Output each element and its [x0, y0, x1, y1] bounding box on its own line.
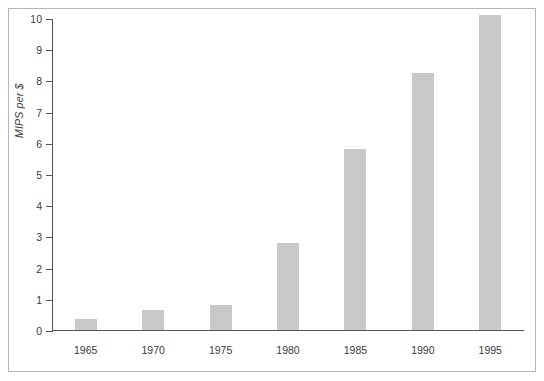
chart-figure: MIPS per $ 012345678910 1965197019751980… [0, 0, 544, 381]
y-tick-mark [46, 269, 53, 270]
x-tick-label: 1970 [141, 344, 164, 356]
y-tick-mark [46, 331, 53, 332]
y-tick-mark [46, 19, 53, 20]
x-axis-line [52, 330, 524, 331]
y-tick-label: 9 [36, 44, 42, 56]
y-tick-label: 5 [36, 169, 42, 181]
y-tick-label: 1 [36, 294, 42, 306]
y-tick-mark [46, 144, 53, 145]
y-tick-label: 2 [36, 263, 42, 275]
bar [412, 73, 434, 330]
x-tick-label: 1965 [74, 344, 97, 356]
bar [210, 305, 232, 330]
y-tick-label: 8 [36, 75, 42, 87]
bar [479, 15, 501, 330]
y-tick-label: 6 [36, 138, 42, 150]
x-tick-label: 1985 [344, 344, 367, 356]
y-tick-label: 7 [36, 107, 42, 119]
y-tick-label: 4 [36, 200, 42, 212]
y-tick-mark [46, 50, 53, 51]
x-tick-label: 1980 [276, 344, 299, 356]
y-tick-mark [46, 81, 53, 82]
y-tick-mark [46, 206, 53, 207]
y-tick-mark [46, 237, 53, 238]
bar [142, 310, 164, 330]
x-tick-label: 1990 [411, 344, 434, 356]
y-tick-mark [46, 300, 53, 301]
y-tick-mark [46, 113, 53, 114]
y-tick-label: 0 [36, 325, 42, 337]
plot-area: 012345678910 196519701975198019851990199… [52, 19, 524, 331]
x-tick-label: 1975 [209, 344, 232, 356]
y-tick-label: 10 [30, 13, 42, 25]
y-axis-title: MIPS per $ [13, 18, 29, 138]
y-tick-label: 3 [36, 231, 42, 243]
x-tick-label: 1995 [479, 344, 502, 356]
bar [344, 149, 366, 330]
y-tick-mark [46, 175, 53, 176]
bar [277, 243, 299, 330]
bar [75, 319, 97, 330]
